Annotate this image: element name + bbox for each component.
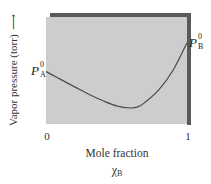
pa0-subscript: A (40, 71, 46, 79)
x-tick-1: 1 (185, 130, 191, 142)
up-arrow-icon: ⟶ (7, 14, 20, 30)
pb0-symbol: P (189, 35, 197, 50)
pa0-symbol: P (31, 63, 39, 78)
y-axis-label: Vapor pressure (torr) ⟶ (7, 14, 20, 126)
pb0-subscript: B (198, 43, 203, 51)
vapor-pressure-chart: Vapor pressure (torr) ⟶ P0A P0B 0 1 Mole… (0, 0, 211, 184)
pb0-superscript: 0 (198, 33, 202, 41)
x-axis-variable: χB (112, 163, 123, 178)
x-variable-subscript: B (117, 169, 122, 178)
pa0-label: P0A (31, 64, 46, 77)
y-axis-label-text: Vapor pressure (torr) (7, 34, 19, 126)
x-axis-label: Mole fraction (86, 147, 149, 159)
pb0-label: P0B (189, 36, 204, 49)
pa0-superscript: 0 (40, 61, 44, 69)
x-tick-0: 0 (44, 130, 50, 142)
vapor-pressure-curve (46, 43, 187, 108)
